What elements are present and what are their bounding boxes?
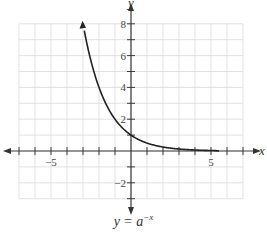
y-axis-label: y (126, 0, 134, 10)
graph-plot: −558642−2 x y (0, 0, 267, 233)
y-tick-label: 6 (121, 50, 127, 62)
x-tick-label: 5 (208, 156, 214, 168)
caption-exponent: −x (143, 212, 153, 222)
x-axis-left-arrow-icon (3, 148, 11, 154)
y-tick-label: 4 (121, 81, 127, 93)
function-caption: y = a−x (0, 212, 267, 230)
caption-base: y = a (114, 214, 144, 229)
x-axis-label: x (258, 143, 265, 158)
y-tick-label: −2 (114, 177, 126, 189)
y-tick-label: 2 (121, 113, 127, 125)
x-tick-label: −5 (45, 156, 57, 168)
y-tick-label: 8 (121, 18, 127, 30)
curve-arrow-icon (80, 21, 87, 29)
exponential-curve (84, 31, 219, 151)
